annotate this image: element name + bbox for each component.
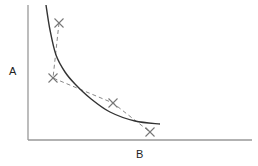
- x-marker-icon: [109, 99, 118, 108]
- chart-canvas: [0, 0, 258, 166]
- dashed-observation-line: [53, 23, 150, 132]
- fitted-curve: [46, 5, 160, 124]
- x-axis-label: B: [136, 148, 143, 160]
- observation-markers: [49, 19, 155, 137]
- x-marker-icon: [146, 128, 155, 137]
- y-axis-label: A: [9, 65, 16, 77]
